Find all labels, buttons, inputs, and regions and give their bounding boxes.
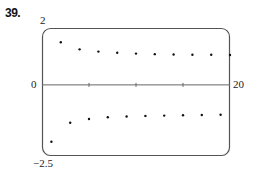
data-point [201, 114, 203, 116]
data-point [97, 50, 99, 52]
data-point [116, 52, 118, 54]
data-point [125, 115, 127, 117]
data-point [60, 41, 62, 43]
scatter-plot [0, 0, 265, 180]
data-point [219, 114, 221, 116]
data-point [144, 115, 146, 117]
data-point [154, 53, 156, 55]
data-points [50, 41, 231, 143]
data-point [172, 53, 174, 55]
data-point [210, 54, 212, 56]
data-point [50, 141, 52, 143]
data-point [229, 54, 231, 56]
data-point [69, 122, 71, 124]
plot-frame [43, 29, 230, 156]
data-point [182, 114, 184, 116]
data-point [78, 48, 80, 50]
data-point [107, 116, 109, 118]
data-point [163, 114, 165, 116]
data-point [88, 118, 90, 120]
data-point [191, 54, 193, 56]
data-point [135, 52, 137, 54]
